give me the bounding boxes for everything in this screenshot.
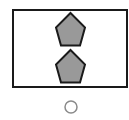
answer-option-radio[interactable] <box>65 101 77 113</box>
diagram-canvas <box>0 0 129 120</box>
